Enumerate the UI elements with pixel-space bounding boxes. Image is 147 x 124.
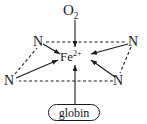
nitrogen-top-right-label: N: [128, 35, 138, 49]
fe2plus-label: Fe2+: [60, 50, 82, 63]
diagram-canvas: O2 Fe2+ N N N N globin: [0, 0, 147, 124]
arrow-n-bottomright-to-fe: [91, 60, 115, 77]
fe-element-text: Fe: [60, 49, 73, 64]
nitrogen-bottom-left-label: N: [4, 74, 14, 88]
arrow-n-topleft-to-fe: [43, 44, 60, 54]
arrow-n-bottomleft-to-fe: [16, 60, 58, 78]
globin-label: globin: [59, 107, 90, 119]
o2-subscript: 2: [74, 11, 79, 21]
dashed-edge-n-topright-to-n-bottomright: [120, 47, 131, 73]
o2-label: O2: [63, 3, 79, 21]
globin-node: globin: [48, 104, 100, 121]
o2-element-text: O: [63, 2, 74, 18]
arrow-n-topright-to-fe: [91, 44, 128, 54]
nitrogen-top-left-label: N: [33, 35, 43, 49]
nitrogen-bottom-right-label: N: [113, 74, 123, 88]
fe-charge-superscript: 2+: [73, 49, 82, 58]
